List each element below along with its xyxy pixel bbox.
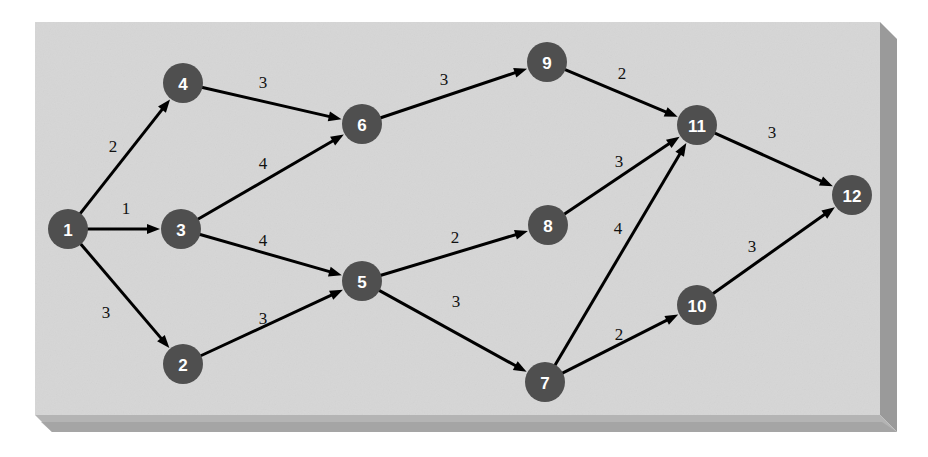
panel-bottom-shadow	[41, 422, 897, 432]
figure-root: 2133443322334233 123456789101112	[0, 0, 928, 457]
graph-node-7[interactable]: 7	[525, 362, 565, 402]
node-7-circle[interactable]	[525, 362, 565, 402]
panel-face	[35, 22, 880, 415]
graph-node-2[interactable]: 2	[163, 344, 203, 384]
node-3-circle[interactable]	[161, 209, 201, 249]
node-1-circle[interactable]	[48, 209, 88, 249]
graph-node-8[interactable]: 8	[528, 205, 568, 245]
node-5-circle[interactable]	[342, 261, 382, 301]
graph-diagram-canvas: 2133443322334233 123456789101112	[0, 0, 928, 457]
node-10-circle[interactable]	[677, 285, 717, 325]
graph-node-5[interactable]: 5	[342, 261, 382, 301]
graph-node-6[interactable]: 6	[342, 104, 382, 144]
node-12-circle[interactable]	[832, 175, 872, 215]
graph-node-11[interactable]: 11	[677, 105, 717, 145]
graph-node-10[interactable]: 10	[677, 285, 717, 325]
panel-right-bevel	[880, 22, 897, 432]
graph-node-4[interactable]: 4	[163, 63, 203, 103]
node-4-circle[interactable]	[163, 63, 203, 103]
node-11-circle[interactable]	[677, 105, 717, 145]
node-8-circle[interactable]	[528, 205, 568, 245]
node-9-circle[interactable]	[527, 42, 567, 82]
graph-node-1[interactable]: 1	[48, 209, 88, 249]
graph-node-3[interactable]: 3	[161, 209, 201, 249]
graph-node-9[interactable]: 9	[527, 42, 567, 82]
node-6-circle[interactable]	[342, 104, 382, 144]
node-2-circle[interactable]	[163, 344, 203, 384]
graph-node-12[interactable]: 12	[832, 175, 872, 215]
